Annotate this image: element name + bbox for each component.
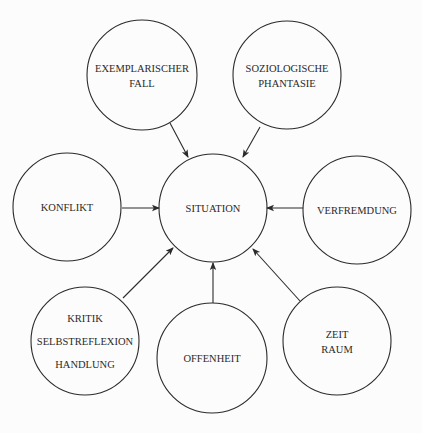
node-circle bbox=[233, 21, 341, 129]
node-verfremdung: VERFREMDUNG bbox=[303, 156, 411, 264]
node-label: KRITIK bbox=[67, 313, 103, 324]
arrow-kritik-selbstreflexion-handlung-to-situation bbox=[123, 248, 173, 298]
node-konflikt: KONFLIKT bbox=[13, 153, 121, 261]
node-kritik-selbstreflexion-handlung: KRITIKSELBSTREFLEXIONHANDLUNG bbox=[31, 287, 139, 395]
node-zeit-raum: ZEITRAUM bbox=[283, 287, 391, 395]
arrow-exemplarischer-fall-to-situation bbox=[170, 123, 188, 157]
nodes-layer: SITUATIONEXEMPLARISCHERFALLSOZIOLOGISCHE… bbox=[13, 20, 411, 413]
node-label: VERFREMDUNG bbox=[317, 205, 397, 216]
node-circle bbox=[283, 287, 391, 395]
node-label: FALL bbox=[129, 78, 154, 89]
node-label: SELBSTREFLEXION bbox=[37, 336, 134, 347]
arrow-soziologische-phantasie-to-situation bbox=[243, 127, 260, 157]
node-exemplarischer-fall: EXEMPLARISCHERFALL bbox=[87, 20, 197, 130]
node-label: OFFENHEIT bbox=[183, 353, 241, 364]
node-label: RAUM bbox=[321, 344, 353, 355]
node-circle bbox=[87, 20, 197, 130]
node-offenheit: OFFENHEIT bbox=[157, 303, 267, 413]
node-label: HANDLUNG bbox=[55, 359, 115, 370]
node-situation: SITUATION bbox=[159, 154, 267, 262]
node-label: SITUATION bbox=[186, 203, 241, 214]
arrow-zeit-raum-to-situation bbox=[253, 249, 300, 301]
node-label: SOZIOLOGISCHE bbox=[246, 63, 329, 74]
node-soziologische-phantasie: SOZIOLOGISCHEPHANTASIE bbox=[233, 21, 341, 129]
node-label: KONFLIKT bbox=[41, 202, 94, 213]
concept-diagram: SITUATIONEXEMPLARISCHERFALLSOZIOLOGISCHE… bbox=[0, 0, 422, 433]
node-label: EXEMPLARISCHER bbox=[95, 63, 189, 74]
node-label: ZEIT bbox=[326, 329, 349, 340]
node-label: PHANTASIE bbox=[258, 78, 316, 89]
